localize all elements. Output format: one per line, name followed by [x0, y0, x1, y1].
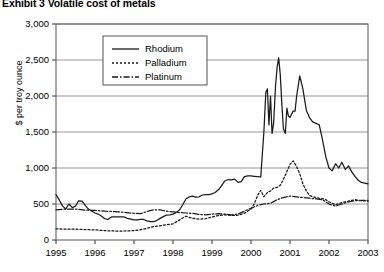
y-tick-label: 2,500	[25, 54, 49, 65]
x-tick-label: 2003	[357, 247, 378, 258]
x-tick-label: 1995	[45, 247, 66, 258]
series-line-palladium	[56, 161, 368, 231]
x-tick-label: 2000	[240, 247, 261, 258]
y-tick-label: 1,500	[25, 126, 49, 137]
legend-label-platinum: Platinum	[145, 71, 182, 82]
x-tick-label: 1996	[84, 247, 105, 258]
chart-figure: Exhibit 3 Volatile cost of metals $ per …	[0, 0, 384, 272]
x-tick-label: 1998	[162, 247, 183, 258]
y-axis-ticks: 05001,0001,5002,0002,5003,000	[25, 18, 56, 245]
legend-label-rhodium: Rhodium	[145, 43, 183, 54]
y-tick-label: 3,000	[25, 18, 49, 29]
chart-legend: RhodiumPalladiumPlatinum	[103, 36, 207, 85]
y-tick-label: 0	[44, 234, 49, 245]
x-tick-label: 2001	[279, 247, 300, 258]
y-tick-label: 1,000	[25, 162, 49, 173]
y-tick-label: 500	[33, 198, 49, 209]
y-tick-label: 2,000	[25, 90, 49, 101]
legend-label-palladium: Palladium	[145, 57, 187, 68]
x-axis-ticks: 199519961997199819992000200120022003	[45, 240, 378, 258]
x-tick-label: 1997	[123, 247, 144, 258]
x-tick-label: 2002	[318, 247, 339, 258]
x-tick-label: 1999	[201, 247, 222, 258]
plot-area: 05001,0001,5002,0002,5003,000 1995199619…	[0, 0, 384, 272]
